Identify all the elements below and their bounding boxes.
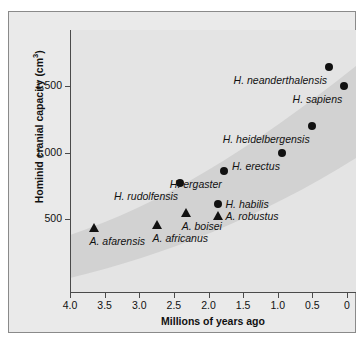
y-tick [65, 219, 70, 220]
y-tick [65, 86, 70, 87]
x-tick-label: 0 [332, 299, 362, 311]
data-point-label: H. neanderthalensis [234, 74, 327, 86]
x-tick-label: 2.5 [159, 299, 189, 311]
x-tick [243, 293, 244, 298]
x-tick [209, 293, 210, 298]
data-point-triangle[interactable] [152, 220, 162, 229]
x-tick [278, 293, 279, 298]
x-tick [70, 293, 71, 298]
x-tick-label: 3.0 [124, 299, 154, 311]
data-point-label: A. africanus [153, 232, 208, 244]
data-point-triangle[interactable] [213, 211, 223, 220]
x-tick [347, 293, 348, 298]
data-point-label: H. sapiens [293, 93, 343, 105]
x-tick [174, 293, 175, 298]
y-axis-label: Hominid cranial capacity (cm3) [31, 27, 45, 227]
data-point-label: H. rudolfensis [114, 190, 178, 202]
x-tick [312, 293, 313, 298]
x-axis-label: Millions of years ago [70, 315, 356, 327]
data-point-label: H. habilis [226, 198, 269, 210]
data-point-label: H. heidelbergensis [223, 133, 310, 145]
y-tick [65, 153, 70, 154]
x-tick-label: 1.0 [263, 299, 293, 311]
plot-area [70, 30, 356, 292]
y-axis [70, 30, 71, 293]
x-tick-label: 4.0 [55, 299, 85, 311]
y-axis-label-text: Hominid cranial capacity (cm [33, 58, 45, 203]
data-point-circle[interactable] [220, 167, 228, 175]
data-point-label: A. afarensis [90, 235, 145, 247]
trend-band [70, 30, 356, 292]
x-tick-label: 3.5 [90, 299, 120, 311]
y-axis-label-tail: ) [33, 50, 45, 54]
data-point-circle[interactable] [278, 149, 286, 157]
data-point-triangle[interactable] [89, 223, 99, 232]
data-point-label: H. ergaster [170, 178, 222, 190]
data-point-label: A. robustus [226, 210, 279, 222]
x-tick-label: 0.5 [297, 299, 327, 311]
y-axis-label-exponent: 3 [31, 54, 40, 58]
x-tick [139, 293, 140, 298]
data-point-circle[interactable] [214, 200, 222, 208]
figure: 5001,0001,500 4.03.53.02.52.01.51.00.50 … [0, 0, 364, 344]
data-point-circle[interactable] [308, 122, 316, 130]
x-tick-label: 1.5 [228, 299, 258, 311]
data-point-label: H. erectus [232, 160, 280, 172]
x-tick [105, 293, 106, 298]
x-tick-label: 2.0 [194, 299, 224, 311]
data-point-triangle[interactable] [181, 208, 191, 217]
data-point-label: A. boisei [182, 220, 222, 232]
